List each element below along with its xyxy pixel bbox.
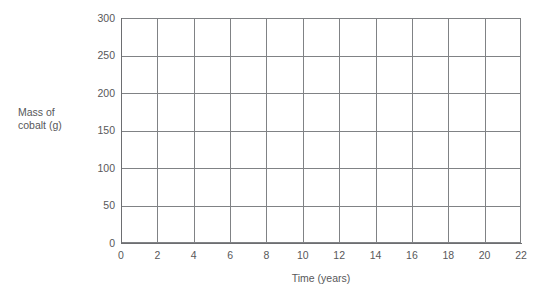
x-axis-tick-labels: 0246810121416182022: [0, 249, 551, 265]
plot-area: [121, 18, 521, 243]
grid-line-horizontal: [121, 18, 521, 19]
x-axis-tick-label: 0: [101, 249, 141, 261]
y-axis-tick-label: 100: [75, 163, 115, 174]
x-axis-tick-label: 4: [174, 249, 214, 261]
x-axis-tick-label: 22: [501, 249, 541, 261]
x-axis-title: Time (years): [121, 272, 521, 285]
x-axis-tick-label: 2: [137, 249, 177, 261]
grid-line-horizontal: [121, 168, 521, 169]
grid-line-horizontal: [121, 93, 521, 94]
chart-figure: Mass of cobalt (g) 050100150200250300 02…: [0, 0, 551, 306]
y-axis-tick-label: 0: [75, 238, 115, 249]
x-axis-tick-label: 6: [210, 249, 250, 261]
x-axis-tick-label: 8: [246, 249, 286, 261]
x-axis-tick-label: 18: [428, 249, 468, 261]
x-axis-tick-label: 10: [283, 249, 323, 261]
y-axis-tick-label: 200: [75, 88, 115, 99]
y-axis-tick-label: 50: [75, 200, 115, 211]
y-axis-tick-label: 150: [75, 125, 115, 136]
y-axis-tick-label: 300: [75, 13, 115, 24]
grid-line-horizontal: [121, 131, 521, 132]
x-axis-line: [121, 243, 522, 244]
x-axis-tick-label: 20: [465, 249, 505, 261]
y-axis-tick-label: 250: [75, 50, 115, 61]
grid-line-horizontal: [121, 56, 521, 57]
y-axis-line: [121, 18, 122, 244]
x-axis-tick-label: 14: [356, 249, 396, 261]
grid-line-horizontal: [121, 206, 521, 207]
x-axis-tick-label: 16: [392, 249, 432, 261]
x-axis-tick-label: 12: [319, 249, 359, 261]
